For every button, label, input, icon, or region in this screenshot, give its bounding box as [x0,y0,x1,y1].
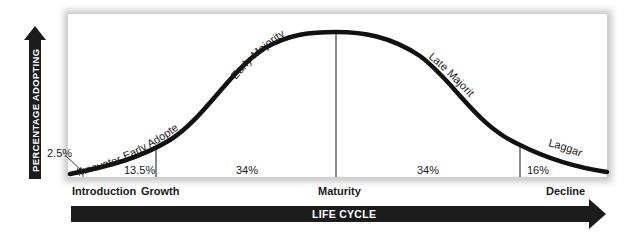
pct-innovators: 2.5% [47,147,72,159]
pct-early-adopters: 13.5% [124,164,155,176]
stage-growth: Growth [141,185,180,197]
pct-laggards: 16% [527,164,549,176]
arrow-up-icon [24,26,46,40]
x-axis-label: LIFE CYCLE [312,208,376,220]
stage-maturity: Maturity [318,185,362,197]
chart-frame [64,10,612,182]
stage-introduction: Introduction [72,185,136,197]
pct-late-majority: 34% [417,164,439,176]
y-axis-label: PERCENTAGE ADOPTING [30,49,41,172]
y-axis-arrow: PERCENTAGE ADOPTING [24,26,46,179]
pct-early-majority: 34% [236,164,258,176]
stage-decline: Decline [546,185,585,197]
arrow-right-icon [589,199,606,229]
diffusion-diagram: Innovators Early Adopters Early Majority… [0,0,629,239]
x-axis-arrow: LIFE CYCLE [71,199,606,229]
